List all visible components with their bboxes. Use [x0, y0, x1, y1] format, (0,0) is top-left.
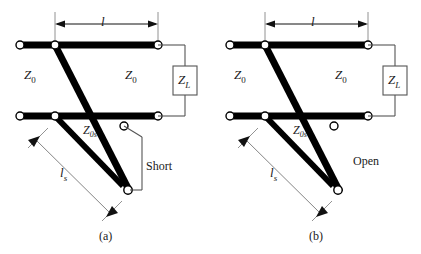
termination-label: Open: [353, 155, 379, 167]
terminal-bottom-junction: [261, 112, 269, 120]
terminal-stub-crossing: [330, 122, 338, 130]
short-bracket-upper-lead: [124, 126, 142, 137]
termination-label: Short: [146, 160, 172, 172]
terminal-top-junction: [51, 41, 59, 49]
arrowhead-stub-upper: [28, 136, 40, 147]
terminal-bottom-left: [226, 112, 234, 120]
impedance-label-right: Z0: [125, 68, 137, 85]
stub-length-label: ls: [60, 166, 67, 183]
stub-dimension-line: [36, 140, 110, 213]
arrowhead-stub-lower: [316, 206, 328, 217]
terminal-top-junction: [261, 41, 269, 49]
load-impedance-label: ZL: [178, 73, 190, 90]
stub-length-label: ls: [270, 166, 277, 183]
impedance-label-left: Z0: [24, 68, 36, 85]
arrowhead-left-l: [265, 21, 275, 28]
arrowhead-right-l: [358, 21, 368, 28]
terminal-top-left: [16, 41, 24, 49]
arrowhead-left-l: [55, 21, 65, 28]
panel-b-drawing: [210, 0, 421, 254]
panel-a: l Z0 Z0 ZL Z0s ls Short (a): [0, 0, 211, 254]
arrowhead-right-l: [148, 21, 158, 28]
terminal-bottom-left: [16, 112, 24, 120]
impedance-label-left: Z0: [234, 68, 246, 85]
arrowhead-stub-lower: [106, 206, 118, 217]
length-label-l: l: [101, 15, 105, 28]
length-label-l: l: [311, 15, 315, 28]
impedance-label-right: Z0: [335, 68, 347, 85]
arrowhead-stub-upper: [238, 136, 250, 147]
load-impedance-label: ZL: [388, 73, 400, 90]
terminal-top-left: [226, 41, 234, 49]
terminal-bottom-junction: [51, 112, 59, 120]
stub-dimension-line: [246, 140, 320, 213]
stub-impedance-label: Z0s: [83, 124, 97, 139]
panel-caption-b: (b): [309, 230, 323, 242]
panel-b: l Z0 Z0 ZL Z0s ls Open (b): [210, 0, 421, 254]
panel-caption-a: (a): [99, 230, 112, 242]
panel-a-drawing: [0, 0, 211, 254]
stub-impedance-label: Z0s: [293, 124, 307, 139]
terminal-stub-end: [334, 186, 342, 194]
stub-matching-figure: l Z0 Z0 ZL Z0s ls Short (a): [0, 0, 421, 254]
